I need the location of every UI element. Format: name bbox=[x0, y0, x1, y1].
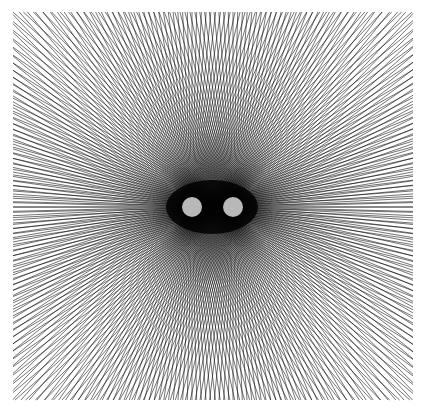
left-source-circle bbox=[182, 197, 202, 217]
right-source-circle bbox=[223, 197, 243, 217]
radial-line-diagram bbox=[0, 0, 425, 418]
dense-core bbox=[166, 180, 258, 234]
